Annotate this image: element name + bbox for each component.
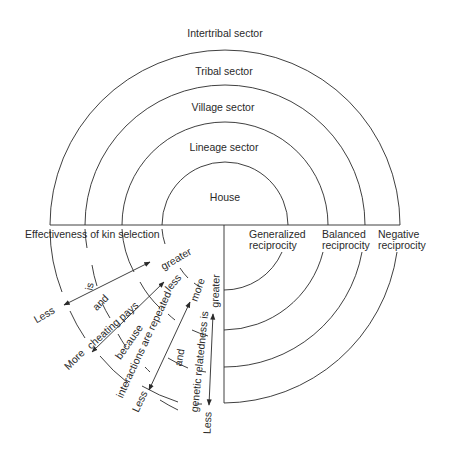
label-lineage: Lineage sector xyxy=(190,141,259,153)
label-tribal: Tribal sector xyxy=(195,65,253,77)
kin-selection-reciprocity-diagram: Intertribal sector Tribal sector Village… xyxy=(0,0,453,456)
village-arc xyxy=(122,122,328,225)
negative-arc-inner xyxy=(224,252,362,367)
balanced-arc xyxy=(224,252,323,330)
label-is: is xyxy=(82,282,95,292)
label-greater-1: greater xyxy=(159,245,194,272)
label-village: Village sector xyxy=(192,101,255,113)
label-more-1: More xyxy=(61,346,87,372)
label-less-2: less xyxy=(162,271,183,293)
label-house: House xyxy=(210,191,241,203)
label-and-1: and xyxy=(90,292,111,313)
generalized-arc xyxy=(224,252,282,290)
arrow-less-greater-vertical xyxy=(209,314,213,405)
negative-arc-outer xyxy=(224,252,397,403)
label-and-2: and xyxy=(172,347,187,366)
label-less-3: Less xyxy=(129,389,149,414)
label-balanced-2: reciprocity xyxy=(322,239,371,251)
label-more-2: more xyxy=(188,276,208,303)
label-kin-title: Effectiveness of kin selection xyxy=(25,228,160,240)
label-intertribal: Intertribal sector xyxy=(187,27,263,39)
label-generalized-2: reciprocity xyxy=(249,239,298,251)
label-less-4: Less xyxy=(201,412,214,435)
label-greater-2: greater xyxy=(208,274,221,308)
label-genetic: genetic relatedness is xyxy=(188,310,211,412)
label-negative-2: reciprocity xyxy=(378,239,427,251)
reciprocity-arcs xyxy=(224,252,397,403)
label-less-1: Less xyxy=(31,304,56,325)
